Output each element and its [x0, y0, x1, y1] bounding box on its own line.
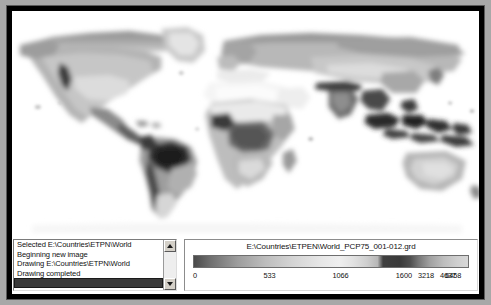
scroll-down-icon[interactable]: [164, 278, 176, 290]
client-area: Selected E:\Countries\ETPN\World Beginni…: [12, 11, 479, 294]
legend-tick-1600: 1600: [396, 271, 412, 280]
list-item-selected[interactable]: [14, 278, 163, 288]
application-window: Selected E:\Countries\ETPN\World Beginni…: [6, 5, 485, 300]
legend-tick-1066: 1066: [332, 271, 348, 280]
legend-tick-0: 0: [193, 271, 197, 280]
bottom-bar: Selected E:\Countries\ETPN\World Beginni…: [12, 237, 479, 294]
list-item[interactable]: Beginning new image: [14, 250, 163, 260]
list-item[interactable]: Drawing completed: [14, 269, 163, 279]
triangle-down-glyph: [167, 282, 173, 286]
legend-tick-3218: 3218: [418, 271, 434, 280]
legend-tick-labels: 053310661600321846376458: [193, 271, 469, 283]
world-map-raster: [12, 11, 479, 239]
list-item[interactable]: Drawing E:\Countries\ETPN\World: [14, 259, 163, 269]
map-display-canvas[interactable]: [12, 11, 479, 239]
message-log-panel[interactable]: Selected E:\Countries\ETPN\World Beginni…: [13, 239, 177, 291]
legend-tick-6458: 6458: [445, 271, 461, 280]
legend-title: E:\Countries\ETPEN\World_PCP75_001-012.g…: [185, 240, 477, 251]
scrollbar-track[interactable]: [164, 252, 176, 278]
colorbar-gradient[interactable]: [193, 255, 469, 268]
colorbar-wrapper: [193, 255, 469, 268]
triangle-up-glyph: [167, 244, 173, 248]
legend-panel: E:\Countries\ETPEN\World_PCP75_001-012.g…: [184, 239, 478, 291]
message-log-list[interactable]: Selected E:\Countries\ETPN\World Beginni…: [14, 240, 163, 290]
legend-tick-533: 533: [263, 271, 275, 280]
scroll-up-icon[interactable]: [164, 240, 176, 252]
list-item[interactable]: Selected E:\Countries\ETPN\World: [14, 240, 163, 250]
log-scrollbar[interactable]: [163, 240, 176, 290]
